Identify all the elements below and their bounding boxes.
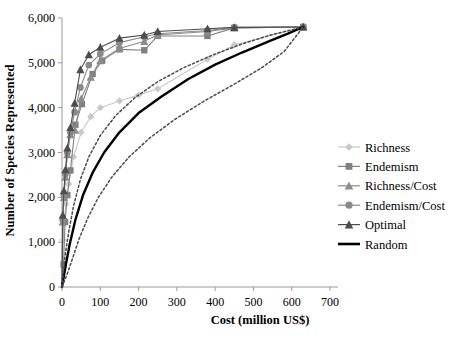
legend-item-richness-cost[interactable]: Richness/Cost [338,179,437,193]
y-tick-label: 0 [49,280,55,294]
y-tick-label: 6,000 [28,11,55,25]
x-tick-label: 600 [283,295,301,309]
data-point-marker [96,43,104,51]
legend-label: Endemism/Cost [365,199,445,213]
data-point-marker [63,144,71,152]
y-tick-label: 4,000 [28,101,55,115]
legend-label: Endemism [365,160,419,174]
series-richness [60,23,307,287]
axes: 01,0002,0003,0004,0005,0006,000010020030… [28,11,339,309]
x-tick-label: 100 [91,295,109,309]
legend-item-richness[interactable]: Richness [338,141,410,155]
x-tick-label: 300 [168,295,186,309]
y-tick-label: 1,000 [28,235,55,249]
data-series-layer [59,23,308,287]
data-point-marker [78,129,85,136]
x-tick-label: 400 [206,295,224,309]
series-line [62,27,303,287]
x-tick-label: 700 [321,295,339,309]
data-point-marker [154,85,161,92]
x-tick-label: 500 [244,295,262,309]
legend-item-endemism[interactable]: Endemism [338,160,419,174]
series-endemism-cost [59,24,306,287]
data-point-marker [345,143,353,151]
legend-item-random[interactable]: Random [338,238,408,252]
data-point-marker [141,47,147,53]
legend-item-optimal[interactable]: Optimal [338,218,406,232]
chart-plot-area: 01,0002,0003,0004,0005,0006,000010020030… [0,0,472,345]
legend-label: Optimal [365,218,406,232]
data-point-marker [85,62,92,69]
y-tick-label: 2,000 [28,190,55,204]
legend-label: Richness/Cost [365,179,437,193]
data-point-marker [116,97,123,104]
data-point-marker [97,50,104,57]
x-tick-label: 200 [130,295,148,309]
chart-legend: RichnessEndemismRichness/CostEndemism/Co… [338,141,445,252]
data-point-marker [346,163,353,170]
legend-label: Richness [365,141,410,155]
data-point-marker [345,202,352,209]
legend-label: Random [365,238,408,252]
y-tick-label: 3,000 [28,146,55,160]
data-point-marker [70,153,77,160]
data-point-marker [85,51,93,59]
legend-item-endemism-cost[interactable]: Endemism/Cost [338,199,445,213]
data-point-marker [76,65,84,73]
y-tick-label: 5,000 [28,56,55,70]
chart-container: Number of Species Represented Cost (mill… [0,0,472,345]
x-tick-label: 0 [59,295,65,309]
data-point-marker [60,186,68,194]
